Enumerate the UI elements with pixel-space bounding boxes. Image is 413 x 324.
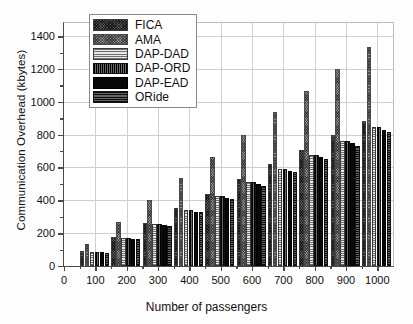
bar-dap-ead-700 <box>288 171 292 266</box>
bar-fica-200 <box>111 237 115 266</box>
y-tick <box>58 200 64 201</box>
legend-item-dap-ead: DAP-EAD <box>93 76 190 90</box>
y-tick <box>58 69 64 70</box>
bar-dap-dad-700 <box>278 169 282 266</box>
bar-oride-400 <box>199 212 203 266</box>
y-tick-label: 0 <box>49 260 55 272</box>
x-tick-minor <box>111 266 112 269</box>
y-tick-label: 1000 <box>31 96 55 108</box>
x-tick <box>95 266 96 271</box>
legend-label: ORide <box>135 91 169 103</box>
x-tick <box>127 266 128 271</box>
x-tick <box>221 266 222 271</box>
bar-fica-700 <box>268 164 272 266</box>
legend-item-ama: AMA <box>93 32 190 46</box>
legend-item-oride: ORide <box>93 90 190 104</box>
legend-item-dap-dad: DAP-DAD <box>93 47 190 61</box>
bar-dap-dad-900 <box>340 141 344 266</box>
y-tick-minor <box>60 53 64 54</box>
legend-label: DAP-DAD <box>135 48 189 60</box>
bar-dap-ord-400 <box>189 210 193 266</box>
bar-fica-400 <box>174 208 178 266</box>
bar-ama-300 <box>147 200 151 266</box>
bar-dap-dad-1000 <box>372 127 376 266</box>
bar-group-600 <box>237 23 267 266</box>
x-tick <box>64 266 65 271</box>
y-tick <box>58 102 64 103</box>
bar-dap-ord-200 <box>126 238 130 266</box>
x-tick-minor <box>299 266 300 269</box>
legend-swatch-fica <box>93 19 128 31</box>
bar-oride-600 <box>261 186 265 266</box>
legend-swatch-ama <box>93 34 128 46</box>
bar-group-900 <box>331 23 361 266</box>
x-tick-minor <box>80 266 81 269</box>
legend-label: DAP-EAD <box>135 77 188 89</box>
y-tick-minor <box>60 151 64 152</box>
bar-dap-dad-200 <box>121 238 125 266</box>
bar-group-800 <box>299 23 329 266</box>
bar-ama-1000 <box>367 47 371 266</box>
y-axis-title: Communication Overhead (kbytes) <box>15 15 27 265</box>
communication-overhead-bar-chart: Communication Overhead (kbytes) Number o… <box>0 0 413 324</box>
x-tick-label: 400 <box>180 274 198 286</box>
bar-dap-ead-100 <box>100 252 104 266</box>
bar-dap-dad-300 <box>152 224 156 266</box>
bar-dap-ead-400 <box>194 212 198 267</box>
x-tick <box>283 266 284 271</box>
bar-dap-dad-500 <box>215 196 219 266</box>
x-tick-label: 0 <box>61 274 67 286</box>
bar-ama-800 <box>304 91 308 266</box>
bar-oride-800 <box>324 159 328 266</box>
bar-dap-ord-600 <box>251 182 255 266</box>
bar-ama-600 <box>241 135 245 267</box>
x-tick-minor <box>330 266 331 269</box>
y-tick-label: 200 <box>37 227 55 239</box>
x-tick <box>158 266 159 271</box>
bar-ama-700 <box>273 112 277 266</box>
legend-label: FICA <box>135 19 162 31</box>
x-tick-minor <box>174 266 175 269</box>
y-tick-label: 1200 <box>31 63 55 75</box>
bar-dap-ead-600 <box>256 184 260 266</box>
x-tick-label: 600 <box>243 274 261 286</box>
x-tick <box>315 266 316 271</box>
bar-dap-ord-300 <box>157 224 161 266</box>
x-tick-label: 900 <box>337 274 355 286</box>
x-tick-minor <box>236 266 237 269</box>
bar-fica-1000 <box>362 121 366 266</box>
bar-oride-300 <box>167 226 171 266</box>
bar-dap-dad-800 <box>309 155 313 266</box>
y-tick-minor <box>60 217 64 218</box>
bar-oride-100 <box>105 253 109 266</box>
bar-dap-dad-100 <box>90 252 94 266</box>
bar-fica-500 <box>205 194 209 266</box>
y-tick <box>58 233 64 234</box>
x-tick <box>346 266 347 271</box>
y-tick <box>58 135 64 136</box>
y-tick-minor <box>60 250 64 251</box>
bar-fica-100 <box>80 251 84 266</box>
bar-ama-400 <box>179 178 183 266</box>
bar-dap-ead-900 <box>350 143 354 266</box>
x-tick-label: 700 <box>274 274 292 286</box>
bar-oride-500 <box>230 199 234 266</box>
y-tick-label: 800 <box>37 129 55 141</box>
legend-swatch-dap-dad <box>93 48 128 60</box>
bar-fica-600 <box>237 179 241 266</box>
legend-label: AMA <box>135 34 161 46</box>
x-tick-minor <box>268 266 269 269</box>
x-tick-minor <box>142 266 143 269</box>
bar-group-500 <box>205 23 235 266</box>
x-tick-label: 200 <box>117 274 135 286</box>
bar-dap-ead-800 <box>319 157 323 266</box>
y-tick-minor <box>60 118 64 119</box>
y-tick-label: 1400 <box>31 30 55 42</box>
legend-item-dap-ord: DAP-ORD <box>93 61 190 75</box>
bar-oride-700 <box>293 172 297 266</box>
bar-fica-900 <box>331 135 335 266</box>
bar-dap-ord-800 <box>314 155 318 266</box>
y-tick <box>58 36 64 37</box>
bar-oride-1000 <box>387 132 391 266</box>
bar-dap-dad-600 <box>246 182 250 266</box>
